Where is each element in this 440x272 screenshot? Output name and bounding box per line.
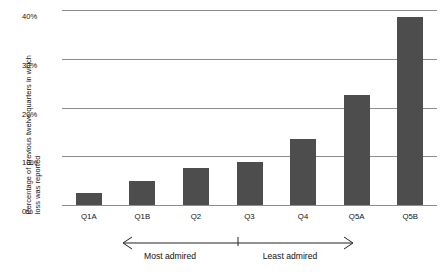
x-tick-label-Q2: Q2 <box>166 212 226 221</box>
x-tick-label-Q5B: Q5B <box>380 212 440 221</box>
gridline-0% <box>62 205 437 206</box>
plot-area: 0%10%20%30%40% Q1AQ1BQ2Q3Q4Q5AQ5B <box>62 10 437 205</box>
y-tick-label: 30% <box>22 61 56 70</box>
bar-Q1B <box>129 181 155 205</box>
annotation-label-least-admired: Least admired <box>230 251 350 261</box>
y-tick-label: 20% <box>22 110 56 119</box>
bar-Q3 <box>237 162 263 205</box>
admiration-range-annotation: Most admired Least admired <box>62 226 437 272</box>
x-tick-label-Q3: Q3 <box>220 212 280 221</box>
annotation-label-most-admired: Most admired <box>110 251 230 261</box>
x-tick-label-Q4: Q4 <box>273 212 333 221</box>
bars-group <box>62 10 437 205</box>
x-tick-label-Q1A: Q1A <box>59 212 119 221</box>
bar-Q5B <box>397 17 423 205</box>
y-tick-label: 40% <box>22 12 56 21</box>
y-tick-label: 10% <box>22 158 56 167</box>
x-tick-label-Q1B: Q1B <box>112 212 172 221</box>
x-tick-label-Q5A: Q5A <box>327 212 387 221</box>
bar-chart: Percentage of previous twelve quarters i… <box>0 0 440 272</box>
bar-Q2 <box>183 168 209 205</box>
bar-Q4 <box>290 139 316 205</box>
y-tick-label: 0% <box>22 207 56 216</box>
bar-Q5A <box>344 95 370 205</box>
bar-Q1A <box>76 193 102 205</box>
